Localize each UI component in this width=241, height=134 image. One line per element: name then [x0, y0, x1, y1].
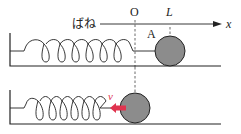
top-figure: ばね O L x A	[10, 5, 232, 67]
ball-top	[155, 36, 185, 66]
bottom-figure: v	[10, 67, 221, 124]
velocity-label: v	[108, 90, 113, 102]
ball-label: A	[147, 27, 156, 41]
x-axis-arrowhead	[213, 21, 222, 27]
length-label: L	[165, 5, 173, 19]
axis-label: x	[225, 17, 232, 31]
spring-extended	[10, 40, 155, 63]
spring-label: ばね	[72, 17, 96, 31]
origin-label: O	[130, 5, 139, 19]
spring-ball-diagram: ばね O L x A v	[0, 0, 241, 134]
spring-compressed	[10, 97, 120, 121]
